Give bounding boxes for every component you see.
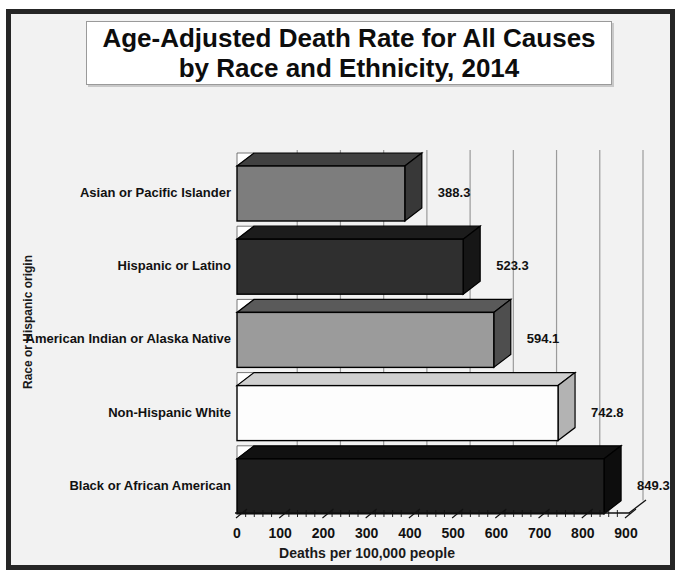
bar-top-face (237, 299, 511, 312)
x-tick-label: 900 (614, 525, 638, 541)
bar-top-face (237, 226, 480, 239)
bar-front (237, 166, 405, 221)
bar-top-face (237, 373, 575, 386)
value-label: 594.1 (527, 331, 560, 346)
bar-front (237, 239, 463, 294)
x-tick-label: 300 (355, 525, 379, 541)
bar-front (237, 386, 558, 441)
x-tick-label: 100 (269, 525, 293, 541)
bar-top-face (237, 153, 422, 166)
x-tick-label: 500 (441, 525, 465, 541)
category-label: Asian or Pacific Islander (80, 185, 231, 200)
bar-front (237, 312, 494, 367)
axis-depth-line (629, 500, 646, 513)
x-tick-label: 200 (312, 525, 336, 541)
x-tick-label: 0 (233, 525, 241, 541)
x-tick-label: 400 (398, 525, 422, 541)
category-label: American Indian or Alaska Native (26, 331, 231, 346)
x-tick-label: 800 (571, 525, 595, 541)
bar-front (237, 459, 604, 514)
category-label: Hispanic or Latino (118, 258, 231, 273)
x-tick-label: 700 (528, 525, 552, 541)
chart-canvas: 388.3Asian or Pacific Islander523.3Hispa… (0, 0, 681, 576)
value-label: 849.3 (637, 478, 670, 493)
x-axis-title: Deaths per 100,000 people (222, 545, 512, 561)
category-label: Non-Hispanic White (108, 405, 231, 420)
value-label: 388.3 (438, 185, 471, 200)
x-tick-label: 600 (485, 525, 509, 541)
category-label: Black or African American (69, 478, 231, 493)
value-label: 742.8 (591, 405, 624, 420)
bar-top-face (237, 446, 621, 459)
value-label: 523.3 (496, 258, 529, 273)
